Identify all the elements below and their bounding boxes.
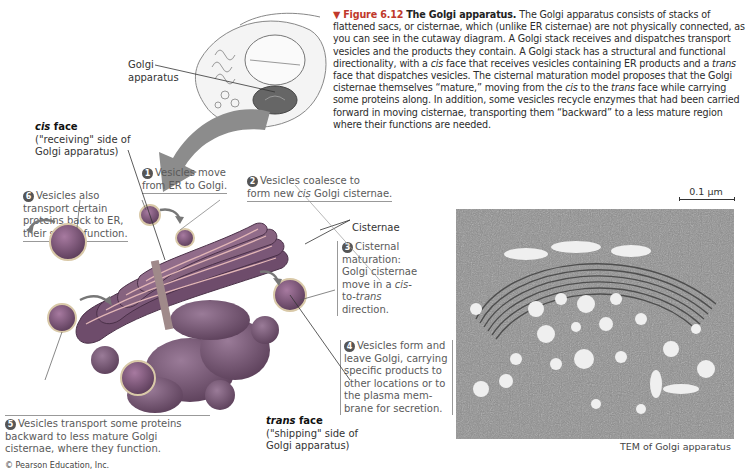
figure-number: Figure 6.12	[343, 9, 403, 20]
label-line: Golgi apparatus)	[266, 440, 358, 453]
golgi-leader-line	[150, 60, 280, 100]
tem-micrograph	[456, 209, 734, 439]
caption-em: cis	[431, 58, 444, 69]
label-line: Golgi apparatus)	[35, 146, 130, 159]
figure-title: The Golgi apparatus.	[406, 9, 516, 20]
label-text: face	[50, 121, 77, 132]
label-text: face	[296, 415, 323, 426]
label-line: cisternae, where they function.	[5, 443, 182, 456]
scale-bar-label: 0.1 µm	[679, 186, 733, 197]
caption-text: to the	[578, 82, 611, 93]
trans-face-title: trans face	[266, 415, 358, 428]
step-5-callout: 5Vesicles transport some proteins backwa…	[5, 418, 182, 456]
label-em: trans	[266, 415, 296, 426]
cis-face-title: cis face	[35, 121, 130, 134]
label-em: cis-	[395, 279, 412, 290]
step-5-rule	[5, 415, 210, 416]
caption-em: cis	[565, 82, 578, 93]
label-em: cis	[35, 121, 50, 132]
label-line: Vesicles transport some proteins	[18, 418, 182, 429]
cis-face-label: cis face ("receiving" side of Golgi appa…	[35, 121, 130, 159]
figure-caption: ▼ Figure 6.12 The Golgi apparatus. The G…	[333, 9, 748, 131]
label-line: backward to less mature Golgi	[5, 431, 182, 444]
scale-bar	[679, 197, 735, 201]
copyright-credit: © Pearson Education, Inc.	[5, 461, 109, 470]
caption-em: trans	[611, 82, 635, 93]
caption-em: trans	[712, 58, 736, 69]
label-line: ("receiving" side of	[35, 134, 130, 147]
step-number-badge: 5	[5, 419, 16, 430]
tem-label: TEM of Golgi apparatus	[620, 441, 731, 452]
caption-text: face that receives vesicles containing E…	[443, 58, 712, 69]
label-line: ("shipping" side of	[266, 428, 358, 441]
trans-face-label: trans face ("shipping" side of Golgi app…	[266, 415, 358, 453]
